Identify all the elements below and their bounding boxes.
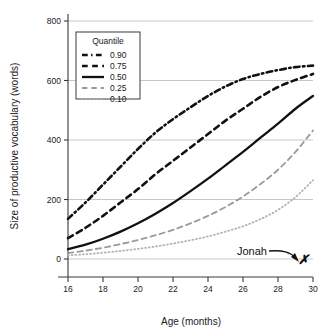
jonah-annotation: Jonah ✗ xyxy=(237,245,310,267)
y-axis-title: Size of productive vocabulary (words) xyxy=(9,63,20,230)
y-tick-label: 400 xyxy=(47,135,61,145)
legend-label-0.10: 0.10 xyxy=(110,94,127,104)
legend-label-0.75: 0.75 xyxy=(110,61,127,71)
x-tick-label: 18 xyxy=(98,284,108,294)
y-tick-label: 200 xyxy=(47,195,61,205)
series-line-0.50 xyxy=(68,96,313,249)
y-tick-label: 0 xyxy=(56,254,61,264)
y-tick-label: 800 xyxy=(47,16,61,26)
jonah-x-marker: ✗ xyxy=(298,252,310,267)
y-axis-ticks: 0200400600800 xyxy=(47,16,68,264)
legend-label-0.50: 0.50 xyxy=(110,72,127,82)
x-axis-title: Age (months) xyxy=(161,316,221,327)
legend-label-0.90: 0.90 xyxy=(110,50,127,60)
x-tick-label: 30 xyxy=(308,284,318,294)
x-tick-label: 26 xyxy=(238,284,248,294)
legend-box: Quantile 0.900.750.500.250.10 xyxy=(76,32,140,104)
x-tick-label: 16 xyxy=(63,284,73,294)
jonah-label: Jonah xyxy=(237,245,267,257)
chart-canvas: 0200400600800 1618202224262830 Jonah ✗ Q… xyxy=(0,0,333,332)
vocabulary-quantile-chart: 0200400600800 1618202224262830 Jonah ✗ Q… xyxy=(0,0,333,332)
legend-label-0.25: 0.25 xyxy=(110,83,127,93)
x-axis-ticks: 1618202224262830 xyxy=(63,277,318,294)
x-tick-label: 22 xyxy=(168,284,178,294)
legend-title: Quantile xyxy=(92,36,124,46)
x-tick-label: 28 xyxy=(273,284,283,294)
x-tick-label: 20 xyxy=(133,284,143,294)
x-tick-label: 24 xyxy=(203,284,213,294)
y-tick-label: 600 xyxy=(47,76,61,86)
